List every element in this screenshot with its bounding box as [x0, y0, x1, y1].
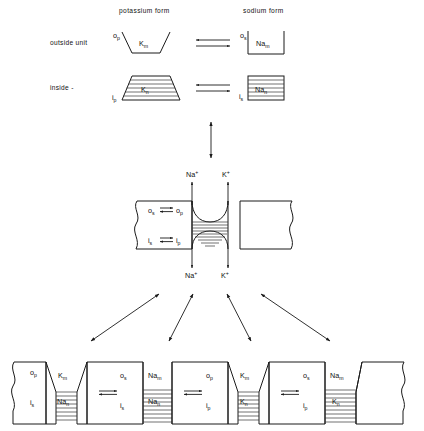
fan-arrow-far-left — [91, 294, 159, 341]
strip-cell-5-end — [356, 362, 405, 424]
strip-cell-4-internal-arrow — [281, 391, 299, 394]
strip-cell-3-upper-label: op — [206, 371, 213, 381]
membrane-label-os: os — [148, 206, 155, 216]
figure-root: potassium form sodium form outside unit … — [0, 0, 424, 431]
fan-arrow-far-right — [261, 294, 330, 341]
strip-channel-1-lower-label: Nan — [57, 397, 69, 407]
ion-label-top-k: K+ — [222, 169, 230, 179]
strip-cell-4: os ip — [269, 362, 325, 424]
unit-inside-potassium: ip Kn — [112, 76, 180, 103]
unit-outside-sodium-corner-label: os — [240, 31, 247, 41]
membrane-right-block — [240, 201, 293, 249]
unit-outside-sodium-center-label: Nam — [256, 39, 270, 49]
strip-channel-3-upper-label: Km — [240, 371, 249, 381]
strip-channel-3-lower-label: Kn — [240, 397, 248, 407]
pore-upper-funnel — [192, 201, 228, 222]
bottom-panel-membrane-strip: op is — [12, 362, 405, 424]
ion-flux-arrows-up — [192, 182, 228, 205]
strip-cell-3: op ip — [172, 362, 228, 424]
strip-cell-2-upper-label: os — [120, 371, 127, 381]
column-header-sodium: sodium form — [243, 7, 284, 14]
membrane-equilibrium-outer: os op — [148, 206, 183, 216]
strip-cell-3-internal-arrow — [184, 391, 202, 394]
membrane-label-op: op — [176, 206, 183, 216]
strip-cell-3-lower-label: ip — [206, 401, 211, 411]
unit-outside-potassium: op Km — [113, 31, 170, 53]
equilibrium-arrow-outside — [196, 40, 230, 46]
equilibrium-arrow-inside — [196, 85, 230, 91]
ion-flux-arrows-down — [192, 249, 228, 268]
unit-inside-potassium-hatching — [123, 80, 178, 96]
unit-outside-sodium: os Nam — [240, 31, 284, 54]
fan-arrow-left — [169, 294, 193, 341]
middle-panel-membrane: Na+ K+ — [135, 169, 293, 280]
ion-label-bottom-na: Na+ — [185, 270, 197, 280]
strip-channel-4-upper-label: Nam — [330, 371, 344, 381]
strip-channel-1: Km Nan — [46, 362, 87, 424]
strip-cell-4-upper-label: os — [303, 371, 310, 381]
strip-cell-2-internal-arrow — [99, 391, 117, 394]
strip-cell-2-lower-label: is — [120, 401, 125, 411]
row-label-outside: outside unit — [50, 39, 87, 46]
membrane-label-is: is — [148, 236, 153, 246]
strip-channel-4-hatching — [325, 390, 357, 422]
unit-outside-potassium-corner-label: op — [113, 31, 120, 41]
pore-hatching — [192, 222, 228, 246]
ion-label-bottom-k: K+ — [221, 270, 229, 280]
strip-channel-2-lower-label: Nan — [148, 397, 160, 407]
column-header-potassium: potassium form — [119, 7, 170, 15]
strip-channel-1-upper-label: Km — [58, 371, 67, 381]
strip-channel-4-lower-label: Kn — [332, 397, 340, 407]
strip-channel-2-upper-label: Nam — [148, 371, 162, 381]
membrane-label-ip: ip — [176, 236, 181, 246]
unit-inside-potassium-corner-label: ip — [112, 93, 117, 103]
unit-inside-sodium: is Nan — [239, 76, 284, 102]
row-label-inside: inside - — [50, 84, 74, 91]
unit-inside-potassium-center-label: Kn — [141, 85, 149, 95]
top-panel: potassium form sodium form outside unit … — [50, 7, 284, 103]
strip-cell-1-lower-label: is — [30, 398, 35, 408]
strip-cell-1-upper-label: op — [30, 368, 37, 378]
strip-cell-4-lower-label: ip — [303, 401, 308, 411]
unit-inside-sodium-corner-label: is — [239, 92, 244, 102]
strip-channel-2: Nam Nan — [143, 362, 172, 424]
strip-cell-1: op is — [12, 362, 46, 424]
fan-arrow-right — [227, 294, 251, 341]
strip-cell-2: os is — [87, 362, 143, 424]
fan-arrows — [91, 294, 330, 341]
membrane-transport-diagram: potassium form sodium form outside unit … — [0, 0, 424, 431]
strip-channel-3: Km Kn — [228, 362, 269, 424]
ion-label-top-na: Na+ — [186, 169, 198, 179]
unit-inside-sodium-center-label: Nan — [255, 85, 267, 95]
unit-outside-potassium-center-label: Km — [139, 39, 148, 49]
membrane-equilibrium-inner: is ip — [148, 236, 181, 246]
